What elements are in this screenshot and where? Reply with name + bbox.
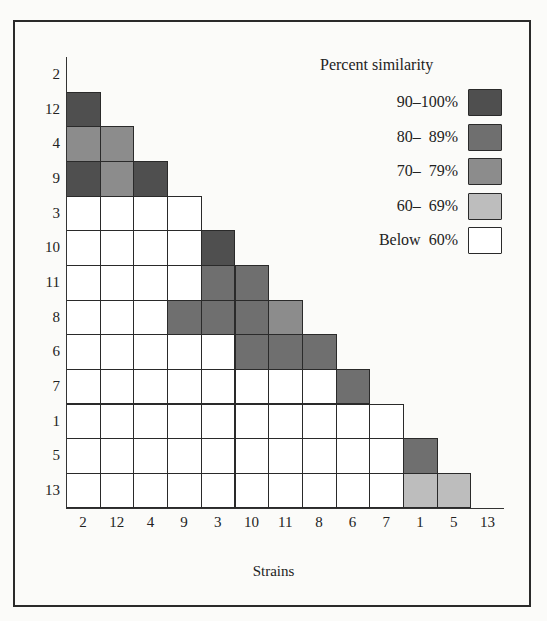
y-tick-label: 3 xyxy=(20,196,60,230)
matrix-cell xyxy=(66,438,101,474)
matrix-cell xyxy=(167,404,202,440)
legend-label: 80– 89% xyxy=(397,128,458,146)
legend-swatch xyxy=(468,158,502,185)
matrix-cell xyxy=(201,369,236,405)
x-tick-label: 7 xyxy=(369,514,403,531)
legend-label: 70– 79% xyxy=(397,162,458,180)
matrix-cell xyxy=(369,404,404,440)
x-tick-label: 5 xyxy=(437,514,471,531)
x-tick-label: 4 xyxy=(133,514,167,531)
matrix-cell xyxy=(369,473,404,509)
matrix-cell xyxy=(100,196,135,232)
matrix-cell xyxy=(268,473,303,509)
legend-label: 60– 69% xyxy=(397,197,458,215)
matrix-cell xyxy=(403,473,438,509)
matrix-cell xyxy=(100,438,135,474)
y-tick-label: 11 xyxy=(20,265,60,299)
matrix-cell xyxy=(201,300,236,336)
matrix-cell xyxy=(66,369,101,405)
matrix-cell xyxy=(133,404,168,440)
matrix-cell xyxy=(235,473,270,509)
matrix-cell xyxy=(201,438,236,474)
matrix-cell xyxy=(235,438,270,474)
matrix-cell xyxy=(336,369,371,405)
y-tick-label: 7 xyxy=(20,369,60,403)
legend-label: Below 60% xyxy=(379,231,458,249)
matrix-cell xyxy=(302,473,337,509)
x-tick-label: 6 xyxy=(336,514,370,531)
legend-label: 90–100% xyxy=(397,93,458,111)
matrix-cell xyxy=(201,265,236,301)
matrix-cell xyxy=(167,369,202,405)
x-axis-title: Strains xyxy=(0,563,547,580)
legend-item: 60– 69% xyxy=(300,193,502,221)
matrix-cell xyxy=(100,404,135,440)
matrix-cell xyxy=(167,265,202,301)
x-tick-label: 8 xyxy=(302,514,336,531)
matrix-cell xyxy=(100,334,135,370)
matrix-cell xyxy=(235,369,270,405)
matrix-cell xyxy=(268,334,303,370)
matrix-cell xyxy=(268,369,303,405)
matrix-cell xyxy=(167,334,202,370)
matrix-cell xyxy=(302,438,337,474)
legend-swatch xyxy=(468,124,502,151)
matrix-cell xyxy=(133,196,168,232)
matrix-cell xyxy=(302,369,337,405)
x-tick-label: 13 xyxy=(470,514,504,531)
legend-item: 80– 89% xyxy=(300,124,502,152)
matrix-cell xyxy=(100,230,135,266)
matrix-cell xyxy=(66,92,101,128)
matrix-cell xyxy=(133,300,168,336)
y-tick-label: 1 xyxy=(20,404,60,438)
y-tick-label: 6 xyxy=(20,334,60,368)
x-tick-label: 12 xyxy=(100,514,134,531)
x-tick-label: 9 xyxy=(167,514,201,531)
matrix-cell xyxy=(403,438,438,474)
legend-swatch xyxy=(468,193,502,220)
matrix-cell xyxy=(167,230,202,266)
matrix-cell xyxy=(268,404,303,440)
matrix-cell xyxy=(133,334,168,370)
y-tick-label: 12 xyxy=(20,92,60,126)
matrix-cell xyxy=(66,161,101,197)
y-tick-label: 10 xyxy=(20,230,60,264)
y-tick-label: 9 xyxy=(20,161,60,195)
matrix-cell xyxy=(235,404,270,440)
matrix-cell xyxy=(133,161,168,197)
matrix-cell xyxy=(302,334,337,370)
y-axis-line xyxy=(66,57,67,509)
matrix-cell xyxy=(66,404,101,440)
matrix-cell xyxy=(268,438,303,474)
x-tick-label: 2 xyxy=(66,514,100,531)
y-tick-label: 2 xyxy=(20,57,60,91)
matrix-cell xyxy=(369,438,404,474)
x-tick-label: 1 xyxy=(403,514,437,531)
matrix-cell xyxy=(133,438,168,474)
matrix-cell xyxy=(235,300,270,336)
x-tick-label: 10 xyxy=(235,514,269,531)
matrix-cell xyxy=(201,404,236,440)
matrix-cell xyxy=(100,265,135,301)
matrix-cell xyxy=(336,438,371,474)
matrix-cell xyxy=(100,126,135,162)
matrix-cell xyxy=(336,473,371,509)
legend-title: Percent similarity xyxy=(320,56,433,74)
matrix-cell xyxy=(268,300,303,336)
matrix-cell xyxy=(235,265,270,301)
matrix-cell xyxy=(66,300,101,336)
legend-item: 90–100% xyxy=(300,89,502,117)
matrix-cell xyxy=(437,473,472,509)
x-tick-label: 11 xyxy=(268,514,302,531)
x-tick-label: 3 xyxy=(201,514,235,531)
matrix-cell xyxy=(133,230,168,266)
matrix-cell xyxy=(100,369,135,405)
legend-item: 70– 79% xyxy=(300,158,502,186)
matrix-cell xyxy=(100,161,135,197)
matrix-cell xyxy=(133,369,168,405)
matrix-cell xyxy=(235,334,270,370)
legend-swatch xyxy=(468,89,502,116)
y-tick-label: 8 xyxy=(20,300,60,334)
matrix-cell xyxy=(66,196,101,232)
x-axis-line xyxy=(66,508,504,509)
